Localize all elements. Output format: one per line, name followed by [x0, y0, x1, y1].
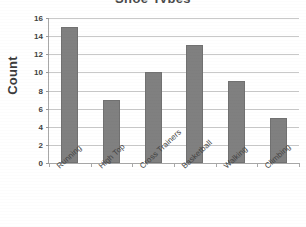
y-axis-tick-label: 6	[39, 104, 43, 113]
x-axis-tick-mark	[299, 163, 300, 167]
x-axis-labels-group: RunningHigh TopCross TrainersBasketballW…	[48, 164, 298, 224]
y-axis-tick-label: 10	[34, 68, 43, 77]
y-axis-tick-label: 14	[34, 32, 43, 41]
y-axis-tick-label: 4	[39, 122, 43, 131]
bar	[61, 27, 78, 163]
bar-chart-figure: Shoe Types Count 0246810121416 RunningHi…	[0, 0, 306, 227]
y-axis-tick-label: 16	[34, 14, 43, 23]
y-axis-tick-label: 8	[39, 86, 43, 95]
chart-title: Shoe Types	[0, 0, 306, 3]
y-axis-tick-label: 0	[39, 159, 43, 168]
y-axis-tick-label: 12	[34, 50, 43, 59]
y-axis-tick-label: 2	[39, 140, 43, 149]
y-axis-title: Count	[5, 46, 20, 106]
